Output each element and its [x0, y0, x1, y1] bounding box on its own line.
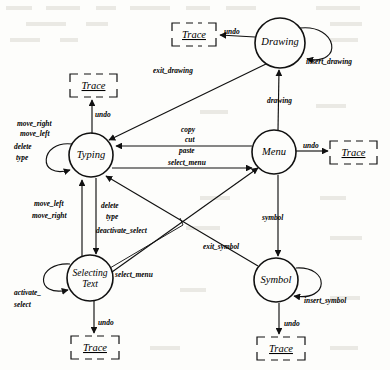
trace-box-typing[interactable]: Trace [70, 74, 117, 97]
edge-exit-symbol [106, 176, 258, 266]
edge-label-type-top: type [16, 153, 29, 162]
edge-label-select-menu-top: select_menu [167, 158, 206, 167]
edge-select-menu-bottom [112, 168, 258, 272]
edge-label-move-left-top: move_left [20, 129, 50, 138]
edge-label-select-menu-bottom: select_menu [114, 270, 153, 279]
edge-activate-select-selfloop [43, 264, 70, 291]
edge-label-type-bot: type [106, 212, 119, 221]
state-node-typing[interactable]: Typing [69, 133, 113, 177]
edge-label-move-right-top: move_right [17, 119, 52, 128]
state-node-selecting-text[interactable]: Selecting Text [67, 255, 113, 301]
edge-label-insert-drawing: insert_drawing [306, 57, 352, 66]
edge-label-insert-symbol: insert_symbol [304, 296, 347, 305]
edge-label-move-right-bot: move_right [32, 211, 67, 220]
state-label-selecting: Selecting [72, 267, 107, 278]
trace-label-drawing: Trace [182, 29, 206, 40]
state-diagram: Drawing Typing Menu Selecting Text Symbo… [0, 0, 390, 370]
trace-label-menu: Trace [342, 147, 366, 158]
state-node-symbol[interactable]: Symbol [254, 258, 298, 302]
edge-label-paste: paste [178, 146, 195, 155]
trace-box-selecting[interactable]: Trace [71, 336, 119, 359]
edge-label-activate-select-2: select [13, 300, 32, 309]
trace-label-selecting: Trace [83, 342, 107, 353]
edge-typing-selfloop [46, 144, 72, 172]
state-label-typing: Typing [77, 149, 105, 160]
edge-label-drawing-undo: undo [224, 27, 240, 36]
edge-label-exit-symbol: exit_symbol [203, 242, 240, 251]
edge-label-activate-select: activate_ [14, 288, 41, 297]
edge-label-symbol-undo: undo [284, 319, 300, 328]
edge-label-move-left-bot: move_left [34, 199, 64, 208]
edge-label-delete-bot: delete [101, 201, 119, 210]
edge-label-typing-undo: undo [95, 110, 111, 119]
edge-label-copy: copy [181, 125, 196, 134]
state-label-selecting-line2: Text [82, 278, 98, 289]
state-node-menu[interactable]: Menu [252, 130, 296, 174]
edge-label-delete-top: delete [14, 142, 32, 151]
edge-label-selecting-undo: undo [98, 318, 114, 327]
edge-label-menu-undo: undo [303, 141, 319, 150]
edge-label-cut: cut [185, 135, 195, 144]
state-node-drawing[interactable]: Drawing [255, 18, 305, 68]
state-label-drawing: Drawing [260, 36, 298, 47]
edge-label-exit-drawing: exit_drawing [153, 66, 193, 75]
trace-box-menu[interactable]: Trace [330, 141, 377, 164]
edge-label-symbol: symbol [261, 213, 284, 222]
trace-label-symbol: Trace [269, 343, 293, 354]
trace-label-typing: Trace [82, 80, 106, 91]
trace-box-drawing[interactable]: Trace [172, 23, 216, 46]
state-label-menu: Menu [261, 146, 286, 157]
trace-box-symbol[interactable]: Trace [257, 337, 305, 360]
edge-label-drawing: drawing [267, 96, 292, 105]
edge-label-deactivate-select: deactivate_select [96, 226, 148, 235]
state-label-symbol: Symbol [261, 274, 292, 285]
